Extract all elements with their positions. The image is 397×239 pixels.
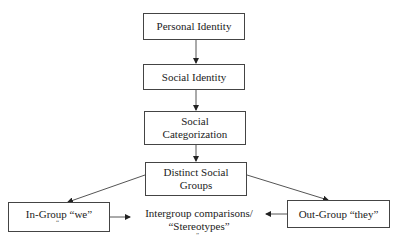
in-group-box: In-Group “we” [8, 202, 110, 232]
intergroup-line1: Intergroup comparisons/ [134, 207, 264, 220]
intergroup-stray-mark: ” [196, 231, 199, 239]
social-identity-box: Social Identity [143, 64, 245, 90]
distinct-groups-line1: Distinct Social [163, 166, 228, 179]
intergroup-comparisons-text: Intergroup comparisons/ “Stereotypes” [134, 207, 264, 233]
distinct-groups-line2: Groups [180, 179, 212, 192]
out-group-box: Out-Group “they” [287, 200, 390, 228]
social-categorization-line2: Categorization [163, 128, 228, 141]
social-categorization-box: Social Categorization [144, 111, 246, 145]
social-categorization-line1: Social [181, 115, 209, 128]
personal-identity-label: Personal Identity [157, 20, 232, 33]
in-group-stray-mark: “ [56, 219, 59, 227]
out-group-label: Out-Group “they” [299, 208, 379, 221]
personal-identity-box: Personal Identity [143, 13, 245, 40]
distinct-social-groups-box: Distinct Social Groups [145, 162, 247, 196]
social-identity-label: Social Identity [162, 71, 226, 84]
